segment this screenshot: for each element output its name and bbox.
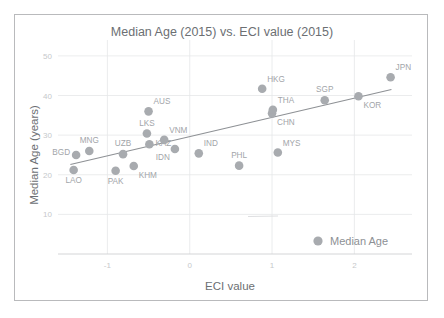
data-point-marker: [274, 148, 283, 157]
data-point-marker: [69, 166, 78, 175]
data-point-label: VNM: [169, 126, 187, 135]
data-point-label: AUS: [154, 97, 171, 106]
data-point: IND: [194, 139, 217, 157]
x-tick-label: -1: [104, 261, 112, 270]
data-point-label: PHL: [231, 151, 247, 160]
data-point: PHL: [231, 151, 247, 170]
data-point-marker: [354, 92, 363, 101]
data-point-label: BGD: [52, 148, 70, 157]
data-point-label: CHN: [277, 118, 295, 127]
y-tick-label: 20: [43, 171, 52, 180]
data-point-marker: [111, 166, 120, 175]
data-point-marker: [72, 151, 81, 160]
data-point-marker: [320, 96, 329, 105]
data-point-label: IND: [204, 139, 218, 148]
y-axis-ticks: 1020304050: [43, 52, 52, 219]
data-point-marker: [194, 149, 203, 158]
y-tick-label: 30: [43, 131, 52, 140]
data-point-label: SGP: [316, 85, 334, 94]
data-point-label: KOR: [363, 101, 381, 110]
data-point: AUS: [144, 97, 171, 115]
data-points: BGDLAOMNGPAKUZBKHMLKSAUSKAZVNMIDNINDPHLH…: [52, 63, 411, 186]
x-tick-label: 2: [352, 261, 357, 270]
data-point-label: UZB: [115, 139, 132, 148]
x-axis-title: ECI value: [205, 280, 255, 292]
data-point: LAO: [65, 166, 81, 185]
data-point: SGP: [316, 85, 334, 104]
legend-marker-icon: [313, 236, 322, 245]
data-point-label: IDN: [156, 153, 170, 162]
chart-title: Median Age (2015) vs. ECI value (2015): [111, 25, 333, 39]
data-point: PAK: [108, 166, 124, 185]
y-tick-label: 40: [43, 92, 52, 101]
data-point: UZB: [115, 139, 132, 158]
y-tick-label: 50: [43, 52, 52, 61]
data-point: BGD: [52, 148, 80, 159]
data-point-marker: [129, 162, 138, 171]
x-tick-label: 1: [270, 261, 275, 270]
data-point-label: HKG: [267, 75, 285, 84]
data-point-marker: [386, 73, 395, 82]
data-point-label: LAO: [65, 176, 81, 185]
y-tick-label: 10: [43, 210, 52, 219]
data-point-marker: [171, 145, 180, 154]
data-point-marker: [258, 84, 267, 93]
data-point-marker: [119, 150, 128, 159]
data-point-marker: [85, 147, 94, 156]
legend-label: Median Age: [330, 235, 388, 247]
data-point-marker: [269, 105, 278, 114]
data-point: THA: [269, 96, 295, 114]
data-point-marker: [235, 161, 244, 170]
data-point-label: THA: [278, 96, 295, 105]
data-point-label: PAK: [108, 177, 124, 186]
data-point: MNG: [80, 136, 99, 155]
data-point: HKG: [258, 75, 285, 93]
data-point: MYS: [274, 139, 302, 157]
y-axis-title: Median Age (years): [28, 105, 40, 205]
data-point-label: LKS: [139, 119, 155, 128]
data-point: KHM: [129, 162, 157, 180]
data-point-marker: [144, 107, 153, 116]
data-point-label: KHM: [139, 171, 157, 180]
render-artifact: [248, 216, 278, 217]
data-point-marker: [160, 136, 169, 145]
gridlines: [58, 40, 412, 254]
data-point-label: MNG: [80, 136, 99, 145]
scatter-chart: Median Age (2015) vs. ECI value (2015) 1…: [0, 0, 444, 318]
data-point-marker: [145, 140, 154, 149]
data-point-label: MYS: [283, 139, 301, 148]
x-axis-ticks: -1012: [104, 261, 357, 270]
legend[interactable]: Median Age: [313, 235, 388, 247]
data-point: JPN: [386, 63, 411, 81]
x-tick-label: 0: [187, 261, 192, 270]
data-point-marker: [143, 129, 152, 138]
data-point-label: JPN: [396, 63, 412, 72]
figure-root: Median Age (2015) vs. ECI value (2015) 1…: [0, 0, 444, 318]
